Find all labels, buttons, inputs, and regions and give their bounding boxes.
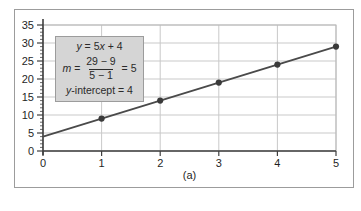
- x-tick-label: 3: [216, 157, 222, 169]
- y-major-ticks: [37, 25, 43, 151]
- data-point: [216, 80, 222, 86]
- intercept-text: -intercept = 4: [71, 85, 133, 97]
- y-intercept-label: y-intercept = 4: [66, 85, 133, 97]
- slope-equation: y = 5x + 4: [76, 41, 122, 53]
- x-tick-label: 5: [333, 157, 339, 169]
- y-tick-label: 10: [22, 109, 34, 121]
- slope-result: = 5: [119, 63, 137, 75]
- slope-fraction: 29 − 95 − 1: [86, 56, 116, 81]
- slope-calculation: m = 29 − 95 − 1 = 5: [62, 56, 136, 81]
- slope-equals: =: [71, 63, 83, 75]
- x-tick-label: 2: [157, 157, 163, 169]
- subfigure-caption: (a): [43, 169, 336, 181]
- y-tick-labels: 05101520253035: [22, 19, 34, 157]
- y-tick-label: 35: [22, 19, 34, 31]
- equation-mid: = 5: [82, 41, 100, 53]
- y-tick-label: 0: [28, 145, 34, 157]
- equation-box: y = 5x + 4 m = 29 − 95 − 1 = 5 y-interce…: [55, 36, 144, 102]
- x-tick-label: 0: [40, 157, 46, 169]
- data-point: [157, 98, 163, 104]
- y-tick-label: 15: [22, 91, 34, 103]
- y-tick-label: 5: [28, 127, 34, 139]
- data-point: [274, 62, 280, 68]
- y-tick-label: 25: [22, 55, 34, 67]
- fraction-numerator: 29 − 9: [86, 56, 116, 68]
- data-point: [333, 44, 339, 50]
- equation-tail: + 4: [105, 41, 123, 53]
- x-tick-label: 4: [274, 157, 280, 169]
- y-tick-label: 30: [22, 37, 34, 49]
- figure: 05101520253035012345 y = 5x + 4 m = 29 −…: [0, 0, 361, 211]
- y-tick-label: 20: [22, 73, 34, 85]
- x-tick-label: 1: [99, 157, 105, 169]
- slope-var-m: m: [62, 63, 71, 75]
- x-tick-labels: 012345: [40, 157, 339, 169]
- fraction-denominator: 5 − 1: [89, 69, 113, 82]
- data-point: [99, 116, 105, 122]
